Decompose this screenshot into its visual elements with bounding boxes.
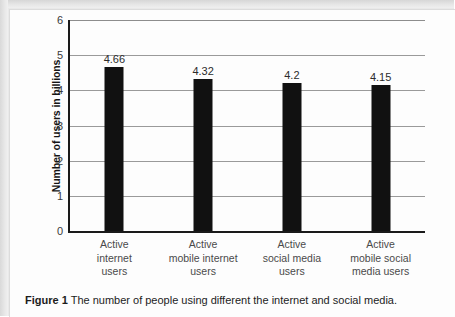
bar-value-label: 4.15 — [370, 71, 391, 83]
bar-value-label: 4.32 — [192, 65, 213, 77]
y-axis-tick-label: 0 — [57, 225, 63, 237]
bar-value-label: 4.66 — [104, 53, 125, 65]
bar — [371, 85, 390, 231]
bar — [105, 67, 124, 231]
bar-value-label: 4.2 — [284, 69, 299, 81]
figure-caption-text: The number of people using different the… — [71, 294, 397, 306]
figure-caption-label: Figure 1 — [25, 294, 68, 306]
bar-group: 4.32Activemobile internetusers — [159, 20, 248, 231]
bar — [282, 83, 301, 231]
plot-area: 0123456 4.66Activeinternetusers4.32Activ… — [68, 20, 425, 233]
y-axis-tick-label: 2 — [57, 155, 63, 167]
category-label-line: mobile social — [329, 252, 433, 266]
y-axis-tick-label: 4 — [57, 84, 63, 96]
x-axis-category-label: Activemobile socialmedia users — [329, 238, 433, 279]
y-axis-tick-label: 6 — [57, 14, 63, 26]
bar — [194, 79, 213, 231]
bar-group: 4.66Activeinternetusers — [70, 20, 159, 231]
y-axis-tick-label: 1 — [57, 190, 63, 202]
category-label-line: Active — [329, 238, 433, 252]
bar-group: 4.15Activemobile socialmedia users — [336, 20, 425, 231]
category-label-line: media users — [329, 265, 433, 279]
y-axis-tick-label: 5 — [57, 49, 63, 61]
figure-caption: Figure 1 The number of people using diff… — [25, 294, 445, 306]
y-axis-tick-label: 3 — [57, 120, 63, 132]
bar-series: 4.66Activeinternetusers4.32Activemobile … — [70, 20, 425, 231]
bar-group: 4.2Activesocial mediausers — [248, 20, 337, 231]
